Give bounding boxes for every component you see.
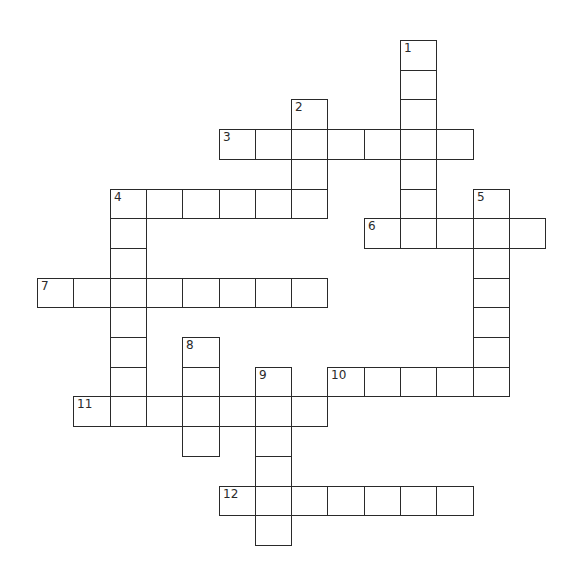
crossword-cell[interactable] xyxy=(219,396,256,427)
crossword-cell[interactable] xyxy=(182,367,220,397)
crossword-cell[interactable] xyxy=(436,367,474,397)
crossword-cell[interactable]: 6 xyxy=(364,218,401,249)
crossword-cell[interactable] xyxy=(182,426,220,457)
crossword-cell[interactable] xyxy=(146,278,183,308)
crossword-cell[interactable] xyxy=(400,159,437,190)
crossword-cell[interactable] xyxy=(364,129,401,160)
clue-number: 5 xyxy=(477,191,485,204)
crossword-cell[interactable] xyxy=(327,486,365,516)
clue-number: 3 xyxy=(223,131,231,144)
crossword-cell[interactable] xyxy=(182,189,220,219)
crossword-cell[interactable] xyxy=(110,278,147,308)
crossword-cell[interactable] xyxy=(219,189,256,219)
crossword-cell[interactable]: 12 xyxy=(219,486,256,516)
crossword-cell[interactable] xyxy=(400,70,437,100)
crossword-cell[interactable]: 11 xyxy=(73,396,111,427)
clue-number: 11 xyxy=(77,398,92,411)
crossword-cell[interactable] xyxy=(219,278,256,308)
crossword-cell[interactable] xyxy=(110,248,147,279)
clue-number: 8 xyxy=(186,339,194,352)
crossword-cell[interactable] xyxy=(255,189,292,219)
crossword-cell[interactable] xyxy=(146,396,183,427)
crossword-cell[interactable] xyxy=(255,129,292,160)
crossword-cell[interactable] xyxy=(400,99,437,130)
crossword-cell[interactable]: 7 xyxy=(37,278,74,308)
clue-number: 12 xyxy=(223,488,238,501)
crossword-cell[interactable] xyxy=(110,307,147,338)
crossword-cell[interactable] xyxy=(110,396,147,427)
crossword-grid: 123456789101112 xyxy=(0,0,570,568)
crossword-cell[interactable] xyxy=(436,129,474,160)
clue-number: 1 xyxy=(404,42,412,55)
crossword-cell[interactable] xyxy=(291,129,328,160)
crossword-cell[interactable] xyxy=(327,129,365,160)
crossword-cell[interactable] xyxy=(364,486,401,516)
crossword-cell[interactable] xyxy=(182,278,220,308)
crossword-cell[interactable] xyxy=(400,129,437,160)
crossword-cell[interactable] xyxy=(291,396,328,427)
crossword-cell[interactable] xyxy=(436,486,474,516)
crossword-cell[interactable] xyxy=(473,367,510,397)
crossword-cell[interactable] xyxy=(73,278,111,308)
crossword-cell[interactable] xyxy=(146,189,183,219)
crossword-cell[interactable] xyxy=(182,396,220,427)
crossword-cell[interactable]: 10 xyxy=(327,367,365,397)
crossword-cell[interactable] xyxy=(291,486,328,516)
clue-number: 6 xyxy=(368,220,376,233)
crossword-cell[interactable]: 3 xyxy=(219,129,256,160)
crossword-cell[interactable] xyxy=(291,159,328,190)
clue-number: 2 xyxy=(295,101,303,114)
crossword-cell[interactable] xyxy=(400,218,437,249)
crossword-cell[interactable]: 4 xyxy=(110,189,147,219)
crossword-cell[interactable]: 1 xyxy=(400,40,437,71)
crossword-cell[interactable] xyxy=(364,367,401,397)
crossword-cell[interactable] xyxy=(473,278,510,308)
crossword-cell[interactable] xyxy=(255,515,292,546)
crossword-cell[interactable]: 8 xyxy=(182,337,220,368)
clue-number: 7 xyxy=(41,280,49,293)
crossword-cell[interactable] xyxy=(291,278,328,308)
crossword-cell[interactable] xyxy=(400,367,437,397)
crossword-cell[interactable] xyxy=(255,396,292,427)
crossword-cell[interactable]: 9 xyxy=(255,367,292,397)
crossword-cell[interactable] xyxy=(436,218,474,249)
crossword-cell[interactable] xyxy=(291,189,328,219)
clue-number: 10 xyxy=(331,369,346,382)
crossword-cell[interactable] xyxy=(473,218,510,249)
crossword-cell[interactable] xyxy=(255,456,292,487)
crossword-cell[interactable] xyxy=(255,486,292,516)
crossword-cell[interactable]: 5 xyxy=(473,189,510,219)
crossword-cell[interactable] xyxy=(473,307,510,338)
clue-number: 4 xyxy=(114,191,122,204)
crossword-cell[interactable] xyxy=(110,218,147,249)
crossword-cell[interactable] xyxy=(255,426,292,457)
crossword-cell[interactable] xyxy=(110,367,147,397)
crossword-cell[interactable] xyxy=(509,218,546,249)
crossword-cell[interactable] xyxy=(473,248,510,279)
crossword-cell[interactable] xyxy=(110,337,147,368)
crossword-cell[interactable] xyxy=(400,486,437,516)
crossword-cell[interactable]: 2 xyxy=(291,99,328,130)
clue-number: 9 xyxy=(259,369,267,382)
crossword-cell[interactable] xyxy=(255,278,292,308)
crossword-cell[interactable] xyxy=(400,189,437,219)
crossword-cell[interactable] xyxy=(473,337,510,368)
